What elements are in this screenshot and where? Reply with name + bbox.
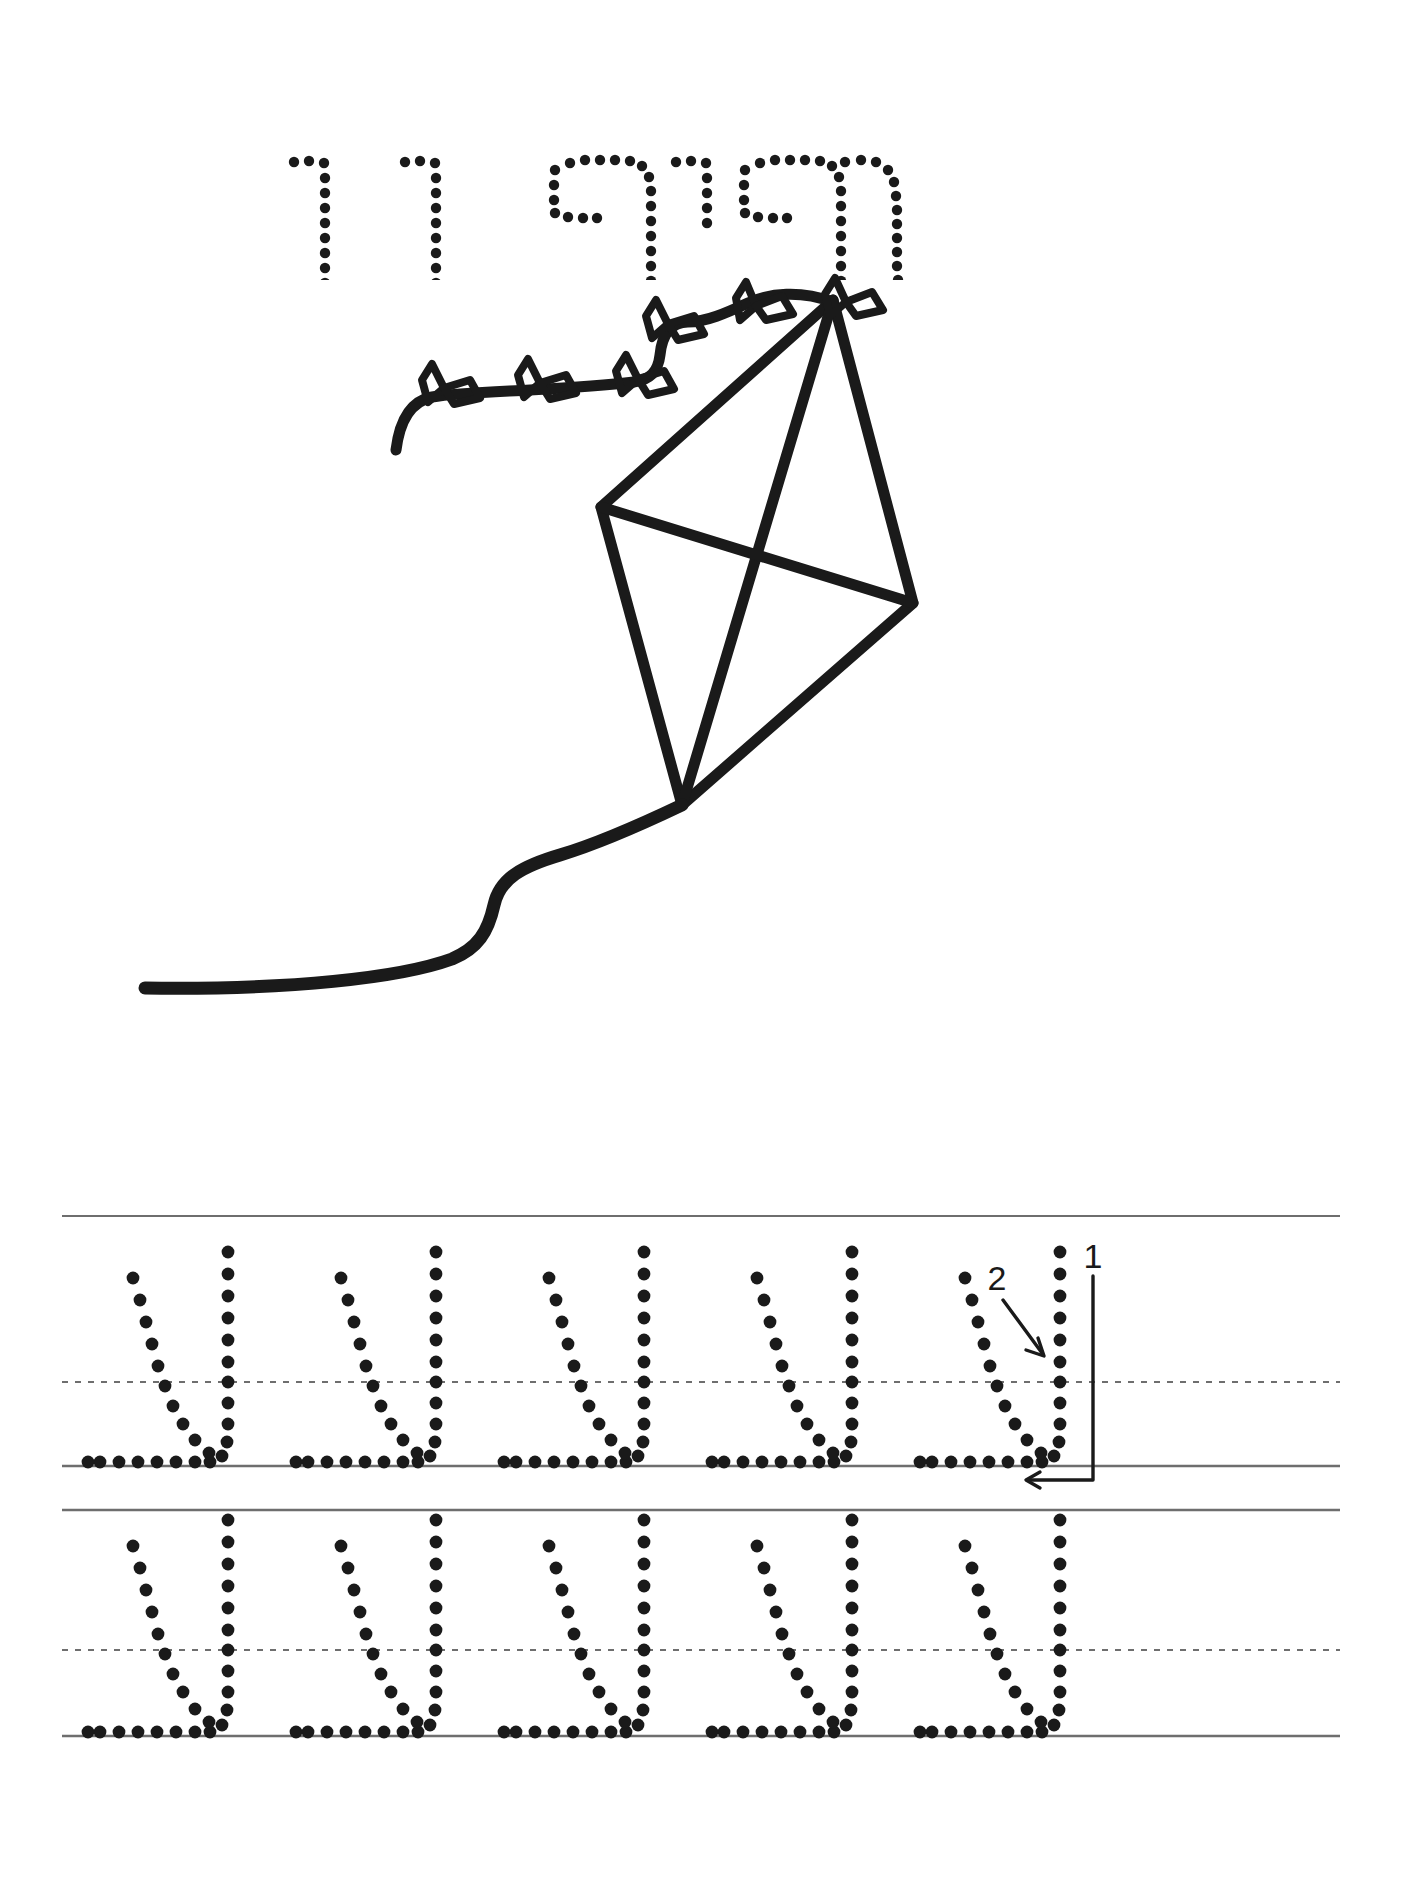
stroke-number-1: 1: [1084, 1237, 1103, 1275]
dotted-ayin: [82, 1246, 235, 1469]
practice-row-2: [82, 1514, 1067, 1739]
kite-illustration: [0, 260, 1418, 1000]
kite-drawing: [0, 260, 1418, 1000]
dotted-ayin: [706, 1246, 859, 1469]
practice-rows-svg: 1 2: [0, 1190, 1418, 1830]
kite-spar-horizontal: [601, 507, 913, 603]
stroke-2-path: [1003, 1300, 1042, 1353]
dotted-ayin: [498, 1514, 651, 1739]
title-letter-yod: [671, 156, 712, 228]
dotted-ayin: [706, 1514, 859, 1739]
stroke-number-2: 2: [988, 1259, 1007, 1297]
dotted-title-letters: [0, 60, 1418, 280]
worksheet-page: עפיפון: [0, 0, 1418, 1886]
tail-bow-4: [518, 359, 576, 399]
dotted-ayin: [82, 1514, 235, 1739]
dotted-ayin: [290, 1514, 443, 1739]
dotted-ayin: [914, 1514, 1067, 1739]
dotted-ayin: [290, 1246, 443, 1469]
kite-flying-line: [145, 805, 682, 988]
dotted-ayin: [498, 1246, 651, 1469]
tail-bow-5: [422, 364, 480, 404]
tail-bow-2: [646, 300, 704, 340]
practice-rows-area: 1 2: [0, 1190, 1418, 1830]
tail-bow-3: [616, 355, 674, 395]
practice-row-1: [82, 1246, 1067, 1469]
title-area: עפיפון: [0, 60, 1418, 280]
